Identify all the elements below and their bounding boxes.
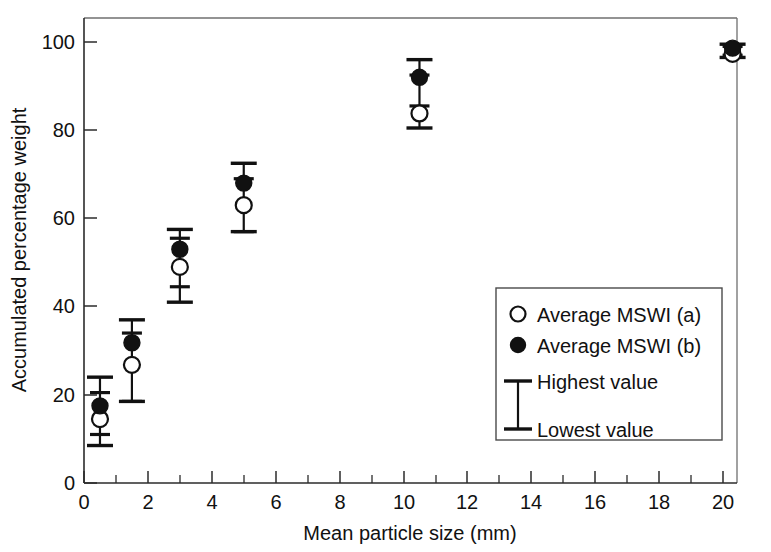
data-point-mswi-a — [124, 357, 140, 373]
data-point-mswi-b — [236, 175, 252, 191]
x-tick-label: 20 — [712, 491, 734, 513]
legend-label: Lowest value — [537, 419, 654, 441]
y-tick-label: 20 — [53, 384, 75, 406]
x-tick-label: 18 — [648, 491, 670, 513]
x-tick-label: 8 — [334, 491, 345, 513]
data-point-mswi-b — [725, 40, 741, 56]
legend-filled-circle-icon — [511, 338, 526, 353]
data-point-mswi-b — [411, 69, 427, 85]
data-cluster — [119, 320, 145, 402]
y-tick-label: 60 — [53, 207, 75, 229]
legend-open-circle-icon — [511, 307, 526, 322]
x-tick-label: 12 — [456, 491, 478, 513]
legend: Average MSWI (a) Average MSWI (b) Highes… — [496, 288, 722, 441]
data-point-mswi-a — [236, 197, 252, 213]
y-tick-label: 100 — [42, 31, 75, 53]
y-tick-label: 80 — [53, 119, 75, 141]
x-tick-label: 14 — [520, 491, 542, 513]
chart-figure: 100 80 60 40 20 0 Accumulated percentage… — [0, 0, 771, 552]
data-point-mswi-b — [92, 398, 108, 414]
legend-label: Highest value — [537, 371, 658, 393]
data-point-mswi-b — [172, 241, 188, 257]
data-cluster — [720, 40, 746, 62]
x-tick-label: 10 — [393, 491, 415, 513]
y-tick-label: 0 — [64, 472, 75, 494]
chart-svg: 100 80 60 40 20 0 Accumulated percentage… — [0, 0, 771, 552]
data-point-mswi-a — [411, 105, 427, 121]
x-tick-label: 16 — [584, 491, 606, 513]
x-tick-label: 2 — [142, 491, 153, 513]
data-point-mswi-a — [172, 259, 188, 275]
y-axis-tick-labels: 100 80 60 40 20 0 — [42, 31, 75, 494]
data-cluster — [167, 229, 193, 302]
y-tick-label: 40 — [53, 295, 75, 317]
x-tick-label: 4 — [206, 491, 217, 513]
x-tick-label: 6 — [270, 491, 281, 513]
data-cluster — [406, 60, 432, 128]
legend-label: Average MSWI (a) — [537, 304, 701, 326]
x-tick-label: 0 — [78, 491, 89, 513]
legend-label: Average MSWI (b) — [537, 335, 701, 357]
data-cluster — [87, 377, 113, 445]
x-axis-tick-labels: 0 2 4 6 8 10 12 14 16 18 20 — [78, 491, 734, 513]
data-point-mswi-b — [124, 335, 140, 351]
x-axis-title: Mean particle size (mm) — [303, 522, 516, 544]
y-axis-title: Accumulated percentage weight — [8, 107, 30, 392]
data-cluster — [231, 163, 257, 231]
